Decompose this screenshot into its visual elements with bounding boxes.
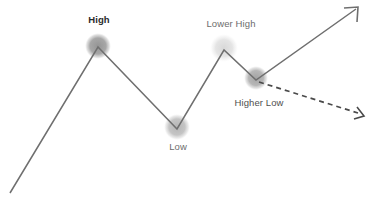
swing-structure-diagram: High Low Lower High Higher Low bbox=[0, 0, 371, 200]
price-swing-line bbox=[10, 9, 356, 193]
label-lower-high: Lower High bbox=[206, 19, 255, 29]
marker-lower-high bbox=[210, 34, 238, 62]
marker-higher-low bbox=[244, 66, 268, 90]
chart-canvas bbox=[0, 0, 371, 200]
marker-low bbox=[164, 114, 190, 140]
label-low: Low bbox=[169, 142, 187, 152]
label-higher-low: Higher Low bbox=[234, 98, 283, 108]
label-high: High bbox=[88, 15, 110, 25]
